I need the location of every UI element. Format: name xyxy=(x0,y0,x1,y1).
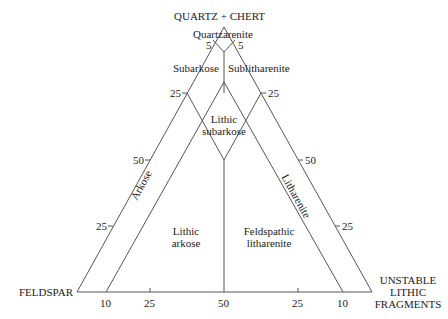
tick-left-25-lower: 25 xyxy=(96,220,107,232)
tick-base-50: 50 xyxy=(218,297,229,309)
field-lithic-subarkose-2: subarkose xyxy=(197,125,251,137)
tick-right-50: 50 xyxy=(305,154,316,166)
tick-left-50: 50 xyxy=(133,154,144,166)
apex-lithic-line3: FRAGMENTS xyxy=(368,298,448,310)
tick-base-10-left: 10 xyxy=(100,297,111,309)
tick-right-25-upper: 25 xyxy=(268,87,279,99)
field-sublitharenite: Sublitharenite xyxy=(228,62,290,74)
tick-base-10-right: 10 xyxy=(337,297,348,309)
tick-top-right-5: 5 xyxy=(238,39,244,51)
apex-lithic-line1: UNSTABLE xyxy=(368,274,448,286)
tick-base-25-left: 25 xyxy=(144,297,155,309)
apex-lithic-line2: LITHIC xyxy=(368,286,448,298)
tick-right-25-lower: 25 xyxy=(342,220,353,232)
field-lithic-subarkose-1: Lithic xyxy=(204,113,244,125)
field-feldspathic-litharenite-2: litharenite xyxy=(234,237,304,249)
field-lithic-arkose-2: arkose xyxy=(164,237,208,249)
tick-top-left-5: 5 xyxy=(206,39,212,51)
apex-quartz-chert: QUARTZ + CHERT xyxy=(174,10,265,22)
apex-feldspar: FELDSPAR xyxy=(19,286,73,298)
tick-base-25-right: 25 xyxy=(292,297,303,309)
field-subarkose: Subarkose xyxy=(173,62,219,74)
field-lithic-arkose-1: Lithic xyxy=(166,225,206,237)
field-feldspathic-litharenite-1: Feldspathic xyxy=(234,225,304,237)
tick-left-25-upper: 25 xyxy=(170,87,181,99)
ternary-diagram xyxy=(0,0,448,319)
